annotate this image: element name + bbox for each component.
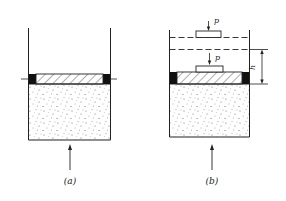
dim-arrow-up-icon [260, 50, 263, 55]
caption-b: (b) [206, 176, 219, 186]
figure-canvas: (a) p p h (b) [0, 0, 286, 201]
piston-body [177, 72, 242, 84]
caption-a: (a) [64, 176, 77, 186]
force-label-top: p [214, 16, 219, 25]
panel-b: p p h (b) [170, 16, 269, 186]
weight-block-top [196, 31, 221, 38]
sand-fill [29, 84, 110, 140]
sand-fill [170, 84, 249, 137]
force-arrow-up-icon [210, 144, 214, 150]
panel-a: (a) [21, 28, 117, 186]
dim-arrow-down-icon [260, 80, 263, 85]
dimension-label-h: h [248, 65, 257, 70]
force-arrow-down-icon [208, 61, 211, 66]
piston-seal-left [170, 72, 177, 84]
piston-seal-right [103, 74, 110, 84]
force-arrow-up-icon [68, 144, 72, 150]
piston-seal-left [29, 74, 36, 84]
piston-body [36, 74, 103, 84]
weight-block-bottom [196, 66, 223, 72]
force-arrow-down-icon [207, 27, 210, 32]
piston-seal-right [242, 72, 249, 84]
force-label-bottom: p [215, 53, 220, 62]
